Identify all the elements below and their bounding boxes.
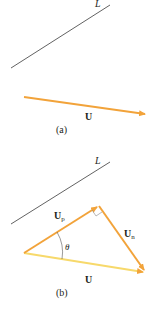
- angle-theta-label: θ: [65, 242, 70, 252]
- vector-u-projection-label: Up: [54, 210, 65, 223]
- vector-u-normal-label: Un: [124, 228, 135, 241]
- vector-u-label: U: [85, 274, 92, 285]
- panel-b: L θ Up Un U (b): [11, 155, 144, 299]
- vector-projection-diagram: L U (a) L θ Up Un U (b): [0, 0, 160, 315]
- line-l-label: L: [94, 0, 101, 9]
- line-l-label: L: [94, 155, 101, 166]
- vector-u-normal: [99, 206, 144, 270]
- right-angle-marker: [92, 210, 102, 216]
- caption-b: (b): [56, 287, 68, 299]
- vector-u-label: U: [85, 111, 92, 122]
- line-l: [11, 5, 110, 68]
- caption-a: (a): [56, 124, 67, 136]
- vector-u: [24, 253, 143, 272]
- angle-arc: [57, 232, 63, 259]
- panel-a: L U (a): [11, 0, 145, 136]
